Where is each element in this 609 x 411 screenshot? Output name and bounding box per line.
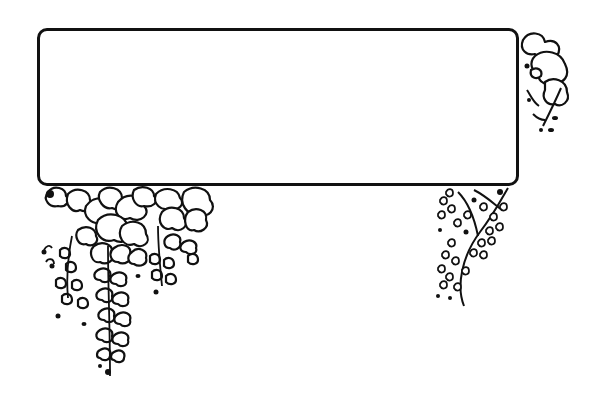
wisteria-flower-icon bbox=[38, 186, 228, 386]
wisteria-raceme-icon bbox=[434, 186, 516, 311]
frame-text bbox=[40, 31, 516, 183]
wisteria-flower-icon bbox=[515, 30, 585, 145]
empty-frame bbox=[37, 28, 519, 186]
illustration-canvas bbox=[0, 0, 609, 411]
